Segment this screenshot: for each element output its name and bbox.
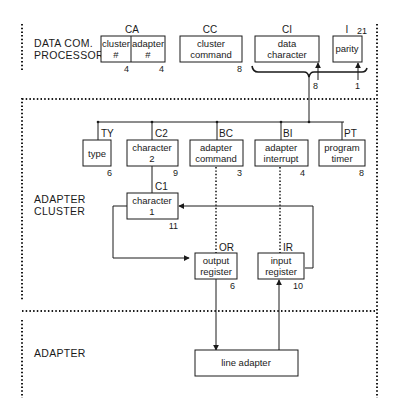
ca-adapter-text-2: # <box>145 49 151 60</box>
ci-text-1: data <box>278 38 297 49</box>
register-ci-label: CI <box>282 24 292 35</box>
section-label-adapter: ADAPTER <box>34 347 86 359</box>
c1-text-2: 1 <box>149 206 154 217</box>
ir-text-2: register <box>265 266 297 277</box>
ca-cluster-bits: 4 <box>124 64 129 74</box>
c1-bits: 11 <box>169 221 178 231</box>
section-label-cluster-2: CLUSTER <box>34 205 85 217</box>
c2-bits: 9 <box>173 168 178 178</box>
register-ca-label: CA <box>125 24 139 35</box>
register-c2-label: C2 <box>155 128 168 139</box>
bc-bits: 3 <box>237 168 242 178</box>
register-bi-label: BI <box>283 128 292 139</box>
register-pt-label: PT <box>344 128 357 139</box>
ci-parity-brace <box>252 66 367 77</box>
ca-adapter-text-1: adapter <box>132 38 164 49</box>
bi-text-2: interrupt <box>264 153 299 164</box>
register-ca: CA cluster # adapter # 4 4 <box>101 24 165 74</box>
pt-text-2: timer <box>331 153 352 164</box>
i21-text-1: parity <box>335 43 358 54</box>
ci-text-2: character <box>267 49 307 60</box>
cc-text-2: command <box>190 49 232 60</box>
ci-bits: 8 <box>313 81 318 91</box>
register-or-label: OR <box>219 242 234 253</box>
ca-cluster-text-2: # <box>113 49 119 60</box>
bi-bits: 4 <box>300 168 305 178</box>
or-text-2: register <box>200 266 232 277</box>
ir-text-1: input <box>271 255 292 266</box>
register-c1-label: C1 <box>155 181 168 192</box>
pt-bits: 8 <box>359 168 364 178</box>
register-i21: I 21 parity 1 <box>333 24 367 91</box>
register-ty-label: TY <box>101 128 114 139</box>
ty-bits: 6 <box>107 168 112 178</box>
bc-text-1: adapter <box>200 142 232 153</box>
i21-bits: 1 <box>355 81 360 91</box>
ca-cluster-text-1: cluster <box>102 38 130 49</box>
c2-text-2: 2 <box>149 153 154 164</box>
register-i21-subscript: 21 <box>357 26 367 36</box>
section-label-dcp-1: DATA COM. <box>34 37 93 49</box>
c2-text-1: character <box>132 142 172 153</box>
line-adapter-text: line adapter <box>221 357 271 368</box>
register-cc: CC cluster command 8 <box>180 24 242 74</box>
register-ir-label: IR <box>283 242 293 253</box>
ty-text-1: type <box>88 148 106 159</box>
register-cc-label: CC <box>203 24 217 35</box>
bc-text-2: command <box>195 153 237 164</box>
line-adapter: line adapter <box>195 350 298 376</box>
or-bits: 6 <box>230 281 235 291</box>
cc-text-1: cluster <box>197 38 225 49</box>
cc-bits: 8 <box>237 64 242 74</box>
section-label-cluster-1: ADAPTER <box>34 193 86 205</box>
adapter-cluster-diagram: DATA COM. PROCESSOR ADAPTER CLUSTER ADAP… <box>0 0 402 408</box>
section-label-dcp-2: PROCESSOR <box>34 49 104 61</box>
pt-text-1: program <box>324 142 359 153</box>
register-ir: IR input register 10 <box>258 242 304 291</box>
c1-text-1: character <box>132 195 172 206</box>
or-text-1: output <box>203 255 230 266</box>
ca-adapter-bits: 4 <box>159 64 164 74</box>
ir-bits: 10 <box>293 281 303 291</box>
register-ty: TY type 6 <box>83 128 114 178</box>
register-i21-label: I <box>346 24 349 35</box>
register-bc-label: BC <box>219 128 233 139</box>
bi-text-1: adapter <box>265 142 297 153</box>
